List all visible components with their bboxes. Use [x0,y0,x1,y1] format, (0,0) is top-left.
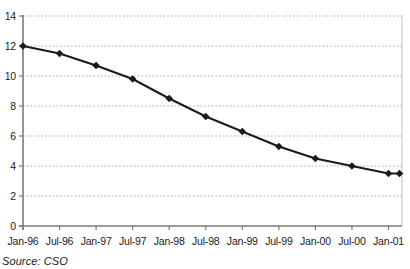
y-tick-label-6: 6 [10,130,16,142]
data-point-8 [312,155,320,163]
x-tick-label-Jul-97: Jul-97 [119,235,147,247]
y-tick-label-8: 8 [10,100,16,112]
x-tick-label-Jan-97: Jan-97 [81,235,112,247]
x-tick-label-Jan-00: Jan-00 [300,235,331,247]
x-tick-label-Jul-98: Jul-98 [192,235,220,247]
data-point-5 [202,113,210,121]
x-tick-label-Jan-96: Jan-96 [8,235,39,247]
data-point-1 [56,50,64,58]
data-point-0 [19,42,27,50]
y-tick-label-10: 10 [5,70,17,82]
x-tick-label-Jul-96: Jul-96 [46,235,74,247]
y-tick-label-4: 4 [10,160,16,172]
data-point-6 [239,128,247,136]
y-tick-label-12: 12 [5,40,17,52]
data-point-9 [348,162,356,170]
x-tick-label-Jan-01: Jan-01 [373,235,404,247]
y-tick-label-14: 14 [5,10,17,22]
y-tick-label-0: 0 [10,220,16,232]
data-point-7 [275,143,283,151]
data-point-4 [165,95,173,103]
source-note: Source: CSO [2,255,68,267]
x-tick-label-Jul-00: Jul-00 [338,235,366,247]
data-line [23,46,399,174]
x-tick-label-Jan-98: Jan-98 [154,235,185,247]
x-tick-label-Jul-99: Jul-99 [265,235,293,247]
chart-container: 02468101214Jan-96Jul-96Jan-97Jul-97Jan-9… [0,0,410,269]
y-tick-label-2: 2 [10,190,16,202]
line-chart: 02468101214Jan-96Jul-96Jan-97Jul-97Jan-9… [0,0,410,269]
data-point-2 [92,62,100,70]
x-tick-label-Jan-99: Jan-99 [227,235,258,247]
data-point-10 [385,170,393,178]
